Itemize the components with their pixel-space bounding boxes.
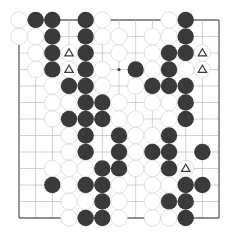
white-stone[interactable] [61,160,77,176]
white-stone[interactable] [111,94,127,110]
white-stone[interactable] [61,193,77,209]
black-stone[interactable] [77,210,93,226]
black-stone[interactable] [161,61,177,77]
black-stone[interactable] [178,28,194,44]
black-stone[interactable] [111,144,127,160]
black-stone[interactable] [111,127,127,143]
black-stone[interactable] [144,144,160,160]
white-stone[interactable] [44,111,60,127]
black-stone[interactable] [77,111,93,127]
white-stone[interactable] [111,111,127,127]
black-stone[interactable] [77,177,93,193]
black-stone[interactable] [44,28,60,44]
black-stone[interactable] [94,160,110,176]
black-stone[interactable] [61,78,77,94]
black-stone[interactable] [144,78,160,94]
black-stone[interactable] [161,144,177,160]
white-stone[interactable] [94,61,110,77]
black-stone[interactable] [77,127,93,143]
triangle-marker-icon[interactable] [194,61,210,77]
black-stone[interactable] [178,45,194,61]
black-stone[interactable] [111,160,127,176]
white-stone[interactable] [111,210,127,226]
black-stone[interactable] [77,78,93,94]
white-stone[interactable] [94,78,110,94]
white-stone[interactable] [44,94,60,110]
white-stone[interactable] [111,28,127,44]
white-stone[interactable] [27,45,43,61]
black-stone[interactable] [94,193,110,209]
black-stone[interactable] [127,61,143,77]
white-stone[interactable] [61,127,77,143]
white-stone[interactable] [77,160,93,176]
black-stone[interactable] [178,210,194,226]
black-stone[interactable] [178,12,194,28]
white-stone[interactable] [161,111,177,127]
white-stone[interactable] [111,193,127,209]
black-stone[interactable] [178,111,194,127]
black-stone[interactable] [194,144,210,160]
white-stone[interactable] [144,28,160,44]
white-stone[interactable] [161,28,177,44]
black-stone[interactable] [44,61,60,77]
black-stone[interactable] [44,12,60,28]
white-stone[interactable] [127,144,143,160]
black-stone[interactable] [161,193,177,209]
white-stone[interactable] [144,193,160,209]
white-stone[interactable] [27,61,43,77]
white-stone[interactable] [11,12,27,28]
white-stone[interactable] [94,28,110,44]
black-stone[interactable] [161,160,177,176]
white-stone[interactable] [77,193,93,209]
black-stone[interactable] [178,78,194,94]
black-stone[interactable] [77,12,93,28]
white-stone[interactable] [144,45,160,61]
white-stone[interactable] [144,160,160,176]
black-stone[interactable] [27,12,43,28]
white-stone[interactable] [61,94,77,110]
white-stone[interactable] [111,177,127,193]
go-board[interactable] [0,0,232,237]
black-stone[interactable] [194,177,210,193]
white-stone[interactable] [144,127,160,143]
white-stone[interactable] [61,210,77,226]
white-stone[interactable] [161,177,177,193]
white-stone[interactable] [144,94,160,110]
black-stone[interactable] [94,111,110,127]
black-stone[interactable] [77,28,93,44]
black-stone[interactable] [44,45,60,61]
black-stone[interactable] [77,61,93,77]
white-stone[interactable] [144,210,160,226]
white-stone[interactable] [94,12,110,28]
black-stone[interactable] [178,94,194,110]
white-stone[interactable] [161,12,177,28]
white-stone[interactable] [144,177,160,193]
black-stone[interactable] [77,144,93,160]
black-stone[interactable] [178,177,194,193]
white-stone[interactable] [161,94,177,110]
white-stone[interactable] [127,78,143,94]
white-stone[interactable] [127,111,143,127]
black-stone[interactable] [94,177,110,193]
white-stone[interactable] [144,61,160,77]
black-stone[interactable] [94,210,110,226]
white-stone[interactable] [27,28,43,44]
white-stone[interactable] [61,144,77,160]
white-stone[interactable] [178,61,194,77]
black-stone[interactable] [178,193,194,209]
triangle-marker-icon[interactable] [178,160,194,176]
white-stone[interactable] [11,28,27,44]
black-stone[interactable] [61,111,77,127]
white-stone[interactable] [44,78,60,94]
white-stone[interactable] [127,127,143,143]
white-stone[interactable] [111,45,127,61]
triangle-marker-icon[interactable] [194,45,210,61]
white-stone[interactable] [127,160,143,176]
white-stone[interactable] [61,177,77,193]
black-stone[interactable] [94,94,110,110]
black-stone[interactable] [161,127,177,143]
black-stone[interactable] [44,177,60,193]
black-stone[interactable] [161,78,177,94]
black-stone[interactable] [77,94,93,110]
white-stone[interactable] [161,210,177,226]
